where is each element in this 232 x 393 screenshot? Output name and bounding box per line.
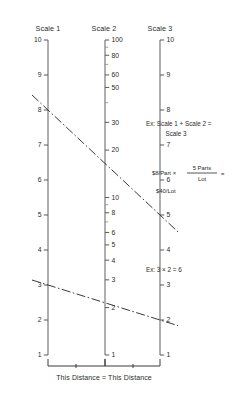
scale-2-header: Scale 2 <box>91 24 116 33</box>
tick-label: 1 <box>167 351 171 358</box>
tick-label: 2 <box>38 316 42 323</box>
scale-3-header: Scale 3 <box>147 24 172 33</box>
tick-label: 10 <box>167 36 175 43</box>
annotation-lower-text: Ex: 3 × 2 = 6 <box>146 266 182 273</box>
tick-label: 5 <box>167 211 171 218</box>
scale-1-ticks <box>44 40 48 355</box>
scale-1-header: Scale 1 <box>35 24 60 33</box>
tick-label: 30 <box>112 119 120 126</box>
annotation-upper-line2: Scale 3 <box>165 130 187 137</box>
tick-label: 9 <box>167 71 171 78</box>
footer-text: This Distance = This Distance <box>56 374 152 381</box>
tick-label: 60 <box>112 71 120 78</box>
nomogram-figure: Scale 1 10987654321 Scale 2 100806050302… <box>0 0 232 393</box>
tick-label: 9 <box>38 71 42 78</box>
formula-equals: = <box>221 171 225 177</box>
tick-label: 4 <box>38 246 42 253</box>
tick-label: 7 <box>38 141 42 148</box>
annotation-upper-line1: Ex: Scale 1 + Scale 2 = <box>146 120 212 127</box>
tick-label: 1 <box>112 351 116 358</box>
tick-label: 8 <box>112 209 116 216</box>
scale-1-group: Scale 1 10987654321 <box>34 24 61 358</box>
scale-2-group: Scale 2 1008060503020108654321 <box>91 24 123 358</box>
tick-label: 20 <box>112 146 120 153</box>
tick-label: 4 <box>167 246 171 253</box>
tick-label: 50 <box>112 84 120 91</box>
tick-label: 6 <box>38 176 42 183</box>
tick-label: 4 <box>112 257 116 264</box>
scale-3-ticks <box>160 40 164 355</box>
tick-label: 100 <box>112 36 124 43</box>
tick-label: 8 <box>38 106 42 113</box>
tick-label: 3 <box>167 281 171 288</box>
scale-2-ticks <box>105 40 109 355</box>
scale-2-tick-labels: 1008060503020108654321 <box>112 36 124 358</box>
nomogram-canvas: Scale 1 10987654321 Scale 2 100806050302… <box>0 0 232 393</box>
tick-label: 5 <box>38 211 42 218</box>
formula-result: $40/Lot <box>156 188 176 194</box>
scale-1-tick-labels: 10987654321 <box>34 36 42 358</box>
tick-label: 3 <box>112 276 116 283</box>
annotation-lower: Ex: 3 × 2 = 6 <box>146 266 182 273</box>
tick-label: 80 <box>112 52 120 59</box>
tick-label: 7 <box>167 141 171 148</box>
scale-3-tick-labels: 10987654321 <box>167 36 175 358</box>
tick-label: 10 <box>34 36 42 43</box>
annotation-upper: Ex: Scale 1 + Scale 2 = Scale 3 <box>146 120 212 137</box>
tick-label: 1 <box>38 351 42 358</box>
tick-label: 10 <box>112 194 120 201</box>
tick-label: 5 <box>112 241 116 248</box>
formula-lead: $8/Part × <box>152 170 177 176</box>
distance-bracket <box>48 359 160 368</box>
tick-label: 6 <box>167 176 171 183</box>
formula-numerator: 5 Parts <box>193 165 212 171</box>
formula-denominator: Lot <box>198 176 207 182</box>
tick-label: 8 <box>167 106 171 113</box>
tick-label: 6 <box>112 229 116 236</box>
